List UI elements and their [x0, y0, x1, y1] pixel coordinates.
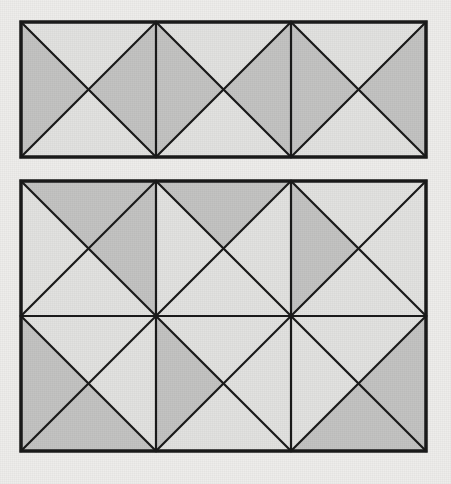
figure-bottom — [18, 178, 429, 454]
figure-top — [18, 19, 429, 160]
figure-sheet — [0, 0, 451, 484]
